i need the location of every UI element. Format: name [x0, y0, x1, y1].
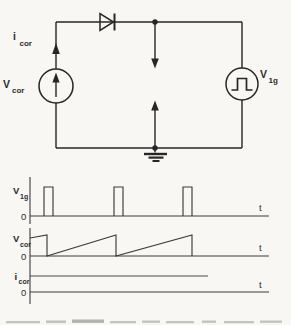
- current-label-sub: cor: [20, 39, 32, 48]
- earth-ground-icon: [144, 148, 167, 161]
- current-arrowhead-icon: [52, 43, 60, 54]
- right-source-label-main: V: [260, 68, 267, 80]
- circuit-and-waveforms-figure: i cor V cor V 1g V 1g 0 t V cor 0 t i co…: [0, 0, 291, 325]
- left-source-label-sub: cor: [12, 86, 24, 95]
- cropped-caption-fragment: [6, 320, 282, 324]
- v1g-label-main: V: [13, 185, 20, 196]
- current-source-icon: [39, 69, 73, 103]
- vcor-sawtooth: [30, 235, 192, 256]
- current-label-main: i: [13, 30, 16, 42]
- vcor-label-main: V: [13, 233, 20, 244]
- icor-time-label: t: [259, 279, 262, 290]
- corona-gap-arrows-icon: [151, 22, 159, 148]
- v1g-label-sub: 1g: [20, 193, 28, 201]
- circuit-schematic: i cor V cor V 1g: [3, 14, 278, 162]
- icor-label-main: i: [15, 271, 18, 282]
- left-source-label-main: V: [3, 78, 10, 90]
- vcor-label-sub: cor: [20, 241, 31, 248]
- pulse-source-circle: [226, 68, 258, 100]
- pulse-glyph: [232, 79, 253, 91]
- v1g-time-label: t: [259, 202, 262, 213]
- icor-zero-label: 0: [21, 287, 26, 298]
- gap-down-arrowhead: [151, 59, 159, 69]
- v1g-zero-label: 0: [21, 211, 26, 222]
- v1g-pulse-path: [44, 187, 192, 216]
- current-source-arrowhead: [52, 73, 59, 83]
- right-source-label-sub: 1g: [269, 76, 278, 85]
- vcor-zero-label: 0: [21, 251, 26, 262]
- waveform-icor: i cor 0 t: [15, 271, 270, 304]
- vcor-time-label: t: [259, 242, 262, 253]
- icor-label-sub: cor: [19, 278, 30, 285]
- scanned-figure-page: i cor V cor V 1g V 1g 0 t V cor 0 t i co…: [0, 0, 291, 325]
- pulse-source-icon: [226, 68, 258, 100]
- waveform-v1g: V 1g 0 t: [13, 177, 269, 224]
- waveform-vcor: V cor 0 t: [13, 228, 269, 271]
